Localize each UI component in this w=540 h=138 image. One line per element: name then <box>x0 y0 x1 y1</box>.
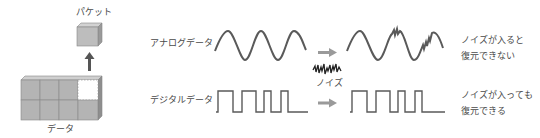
digital-result-line2: 復元できる <box>461 103 533 119</box>
digital-result-line1: ノイズが入っても <box>461 87 533 103</box>
noise-squiggle-icon <box>313 64 341 74</box>
analog-result-line2: 復元できない <box>461 48 524 64</box>
right-arrow-icon-digital <box>318 99 337 108</box>
analog-wave-clean <box>215 31 306 60</box>
up-arrow-icon <box>85 52 95 71</box>
analog-result-line1: ノイズが入ると <box>461 32 524 48</box>
data-block-icon <box>21 76 102 120</box>
analog-result-note: ノイズが入ると 復元できない <box>461 32 524 64</box>
right-arrow-icon-analog <box>318 48 337 57</box>
packet-label: パケット <box>76 7 112 18</box>
diagram-canvas <box>0 0 540 138</box>
digital-result-note: ノイズが入っても 復元できる <box>461 87 533 119</box>
packet-cube-icon <box>77 23 102 46</box>
digital-wave-restored <box>350 91 445 112</box>
noise-label: ノイズ <box>316 78 343 89</box>
digital-data-label: デジタルデータ <box>150 95 213 106</box>
digital-wave-clean <box>216 91 308 112</box>
analog-wave-noisy <box>347 29 443 60</box>
analog-data-label: アナログデータ <box>150 38 213 49</box>
data-label: データ <box>47 124 74 135</box>
